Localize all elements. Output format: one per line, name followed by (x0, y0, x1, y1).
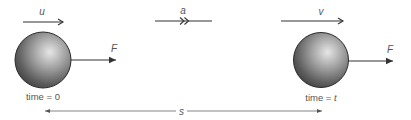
final-state-group: v F time = t (281, 6, 394, 103)
initial-force-label: F (111, 43, 118, 54)
final-time-label: time = t (305, 92, 337, 103)
final-velocity-label: v (319, 6, 325, 17)
motion-diagram: u F time = 0 a v F time = t (0, 0, 411, 120)
final-velocity-arrow: v (281, 6, 343, 21)
sphere-icon (294, 33, 349, 88)
sphere-icon (15, 32, 71, 88)
displacement-indicator: s (45, 106, 322, 117)
final-force-label: F (387, 44, 394, 55)
time-prefix: time = (305, 92, 334, 103)
time-value: 0 (55, 91, 60, 102)
initial-velocity-arrow: u (23, 6, 63, 22)
initial-state-group: u F time = 0 (15, 6, 118, 102)
acceleration-indicator: a (155, 5, 212, 25)
initial-force-arrow: F (71, 43, 118, 60)
final-force-arrow: F (348, 44, 394, 61)
acceleration-label: a (180, 5, 186, 16)
time-value: t (334, 92, 337, 103)
time-prefix: time = (26, 91, 55, 102)
initial-velocity-label: u (39, 6, 45, 17)
initial-time-label: time = 0 (26, 91, 60, 102)
displacement-label: s (179, 106, 184, 117)
